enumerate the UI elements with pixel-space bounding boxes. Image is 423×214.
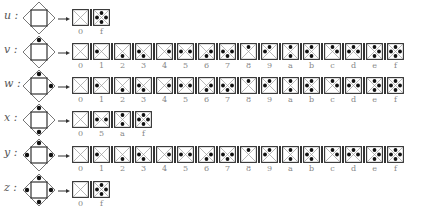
- separator-bar: [363, 146, 365, 163]
- encoding-cell: a: [282, 43, 299, 70]
- cell-hex-label: 0: [78, 199, 83, 208]
- separator-bar: [321, 43, 323, 60]
- dot-cell-icon: [93, 146, 110, 163]
- dot-cell-icon: [93, 111, 110, 128]
- row-label: w :: [4, 77, 21, 90]
- cell-hex-label: 5: [183, 164, 188, 173]
- encoding-cell: f: [93, 181, 110, 208]
- encoding-cell: 6: [198, 77, 215, 104]
- dot-cell-icon: [198, 43, 215, 60]
- row-z: z :0f: [0, 173, 423, 207]
- encoding-cell: 4: [156, 146, 173, 173]
- separator-bar: [321, 77, 323, 94]
- encoding-cell: 3: [135, 77, 152, 104]
- pattern-icon: [22, 69, 56, 103]
- encoding-cell: d: [345, 77, 362, 104]
- cell-list: 0f: [72, 181, 110, 208]
- cell-hex-label: b: [309, 164, 314, 173]
- dot-cell-icon: [135, 111, 152, 128]
- encoding-cell: b: [303, 43, 320, 70]
- separator-bar: [90, 9, 92, 26]
- cell-hex-label: c: [330, 164, 334, 173]
- encoding-cell: 7: [219, 43, 236, 70]
- dot-cell-icon: [366, 77, 383, 94]
- encoding-cell: 0: [72, 9, 89, 36]
- encoding-cell: 7: [219, 146, 236, 173]
- separator-bar: [342, 43, 344, 60]
- separator-bar: [384, 43, 386, 60]
- separator-bar: [237, 43, 239, 60]
- separator-bar: [258, 146, 260, 163]
- dot-cell-icon: [93, 181, 110, 198]
- row-x: x :05af: [0, 103, 423, 137]
- dot-cell-icon: [240, 43, 257, 60]
- encoding-cell: f: [387, 43, 404, 70]
- dot-cell-icon: [198, 77, 215, 94]
- encoding-cell: 5: [177, 43, 194, 70]
- dot-cell-icon: [156, 146, 173, 163]
- separator-bar: [279, 77, 281, 94]
- encoding-cell: 1: [93, 77, 110, 104]
- separator-bar: [300, 77, 302, 94]
- separator-bar: [90, 77, 92, 94]
- dot-cell-icon: [177, 146, 194, 163]
- encoding-cell: 9: [261, 43, 278, 70]
- separator-bar: [384, 146, 386, 163]
- encoding-cell: 0: [72, 77, 89, 104]
- cell-hex-label: a: [288, 164, 293, 173]
- dot-cell-icon: [219, 146, 236, 163]
- encoding-cell: e: [366, 43, 383, 70]
- separator-bar: [300, 43, 302, 60]
- pattern-icon: [22, 103, 56, 137]
- dot-cell-icon: [240, 146, 257, 163]
- separator-bar: [90, 146, 92, 163]
- separator-bar: [132, 146, 134, 163]
- dot-cell-icon: [282, 77, 299, 94]
- dot-cell-icon: [387, 77, 404, 94]
- cell-hex-label: 1: [99, 164, 104, 173]
- separator-bar: [153, 77, 155, 94]
- separator-bar: [111, 111, 113, 128]
- dot-cell-icon: [135, 146, 152, 163]
- encoding-cell: 1: [93, 43, 110, 70]
- dot-cell-icon: [72, 9, 89, 26]
- dot-cell-icon: [219, 77, 236, 94]
- dot-cell-icon: [156, 43, 173, 60]
- dot-cell-icon: [303, 146, 320, 163]
- separator-bar: [111, 43, 113, 60]
- separator-bar: [111, 77, 113, 94]
- separator-bar: [195, 43, 197, 60]
- separator-bar: [363, 43, 365, 60]
- dot-cell-icon: [177, 77, 194, 94]
- encoding-cell: b: [303, 77, 320, 104]
- encoding-cell: a: [282, 146, 299, 173]
- encoding-cell: d: [345, 43, 362, 70]
- encoding-cell: 2: [114, 43, 131, 70]
- cell-hex-label: 0: [78, 164, 83, 173]
- separator-bar: [321, 146, 323, 163]
- separator-bar: [111, 146, 113, 163]
- dot-cell-icon: [72, 181, 89, 198]
- separator-bar: [90, 111, 92, 128]
- dot-cell-icon: [282, 146, 299, 163]
- separator-bar: [237, 77, 239, 94]
- dot-cell-icon: [135, 77, 152, 94]
- dot-cell-icon: [114, 43, 131, 60]
- encoding-cell: 0: [72, 111, 89, 138]
- arrow-right-icon: [57, 113, 71, 127]
- dot-cell-icon: [72, 77, 89, 94]
- separator-bar: [174, 146, 176, 163]
- dot-cell-icon: [345, 43, 362, 60]
- encoding-cell: f: [387, 146, 404, 173]
- encoding-cell: 3: [135, 146, 152, 173]
- separator-bar: [90, 43, 92, 60]
- separator-bar: [216, 77, 218, 94]
- dot-cell-icon: [93, 9, 110, 26]
- row-label: z :: [4, 181, 17, 194]
- arrow-right-icon: [57, 183, 71, 197]
- dot-cell-icon: [114, 111, 131, 128]
- encoding-cell: 5: [177, 146, 194, 173]
- cell-hex-label: f: [142, 129, 145, 138]
- cell-hex-label: 5: [99, 129, 104, 138]
- dot-cell-icon: [72, 43, 89, 60]
